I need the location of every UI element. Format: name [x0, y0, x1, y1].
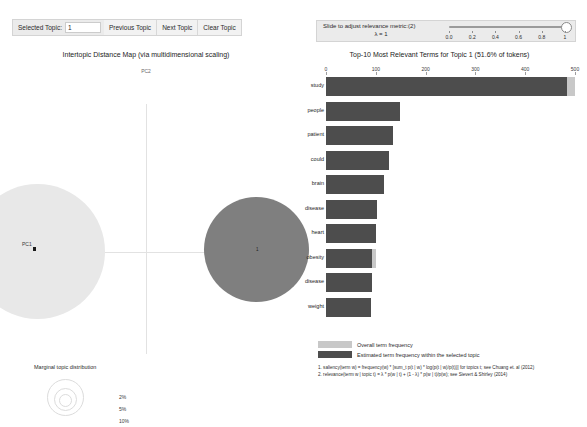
- slider-tick-label: 0.4: [492, 34, 499, 40]
- x-axis-tick-label: 300: [471, 66, 479, 72]
- barchart-row[interactable]: could: [292, 149, 587, 173]
- map-origin-marker: [33, 247, 36, 251]
- bar-topic-frequency[interactable]: [326, 273, 372, 292]
- pc1-axis-label: PC1: [22, 241, 32, 247]
- bar-term-label[interactable]: disease: [305, 278, 324, 284]
- map-y-axis: [146, 104, 147, 354]
- slider-tick: [565, 31, 566, 33]
- x-axis-tick-label: 200: [421, 66, 429, 72]
- barchart-row[interactable]: weight: [292, 296, 587, 320]
- footnote-relevance: 2. relevance(term w | topic t) = λ * p(w…: [318, 371, 580, 378]
- relevance-slider[interactable]: 0.00.20.40.60.81: [447, 24, 569, 40]
- topic-toolbar: Selected Topic: Previous Topic Next Topi…: [12, 19, 242, 36]
- map-title: Intertopic Distance Map (via multidimens…: [0, 51, 292, 58]
- bar-term-label[interactable]: people: [307, 107, 324, 113]
- slider-tick: [519, 31, 520, 33]
- barchart-row[interactable]: disease: [292, 198, 587, 222]
- barchart-row[interactable]: patient: [292, 124, 587, 148]
- x-axis-tick-label: 0: [325, 66, 328, 72]
- topic-bubble-2[interactable]: [0, 184, 105, 319]
- slider-tick: [449, 31, 450, 33]
- bar-term-label[interactable]: disease: [305, 205, 324, 211]
- lambda-value-label: λ = 1: [323, 31, 439, 37]
- barchart-footnotes: 1. saliency(term w) = frequency(w) * [su…: [318, 364, 580, 378]
- barchart-row[interactable]: people: [292, 100, 587, 124]
- marginal-topic-distribution-legend: Marginal topic distribution 2% 5% 10%: [26, 364, 176, 427]
- legend-row-estimated: Estimated term frequency within the sele…: [318, 350, 480, 359]
- barchart-row[interactable]: obesity: [292, 247, 587, 271]
- bar-term-label[interactable]: study: [311, 82, 324, 88]
- selected-topic-group: Selected Topic:: [13, 20, 104, 35]
- next-topic-button[interactable]: Next Topic: [157, 20, 198, 35]
- barchart-legend: Overall term frequency Estimated term fr…: [318, 340, 587, 362]
- barchart-row[interactable]: brain: [292, 173, 587, 197]
- legend-swatch-estimated: [318, 351, 352, 358]
- bar-topic-frequency[interactable]: [326, 77, 567, 96]
- barchart-row[interactable]: heart: [292, 222, 587, 246]
- legend-label-estimated: Estimated term frequency within the sele…: [357, 352, 480, 358]
- slider-track[interactable]: [449, 26, 565, 28]
- slider-tick: [495, 31, 496, 33]
- bar-topic-frequency[interactable]: [326, 249, 372, 268]
- bar-topic-frequency[interactable]: [326, 126, 393, 145]
- bar-term-label[interactable]: obesity: [307, 254, 324, 260]
- bar-term-label[interactable]: could: [311, 156, 324, 162]
- selected-topic-label: Selected Topic:: [18, 24, 62, 31]
- x-axis-tick-label: 400: [521, 66, 529, 72]
- x-axis-tick-label: 100: [372, 66, 380, 72]
- bar-topic-frequency[interactable]: [326, 175, 384, 194]
- relevance-slider-panel: Slide to adjust relevance metric:(2) λ =…: [316, 20, 576, 42]
- top-terms-barchart-panel: Top-10 Most Relevant Terms for Topic 1 (…: [292, 44, 587, 396]
- barchart-row[interactable]: disease: [292, 271, 587, 295]
- slider-tick: [542, 31, 543, 33]
- x-axis-tick-label: 500: [571, 66, 579, 72]
- intertopic-distance-map-panel: Intertopic Distance Map (via multidimens…: [0, 44, 292, 396]
- barchart-row[interactable]: study: [292, 75, 587, 99]
- bar-term-label[interactable]: heart: [311, 229, 324, 235]
- topic-bubble-1-label: 1: [256, 247, 259, 252]
- bar-topic-frequency[interactable]: [326, 200, 377, 219]
- bar-topic-frequency[interactable]: [326, 102, 400, 121]
- pc2-axis-label: PC2: [0, 68, 292, 74]
- slider-tick-label: 0.6: [515, 34, 522, 40]
- clear-topic-button[interactable]: Clear Topic: [198, 20, 240, 35]
- slider-tick-label: 0.2: [469, 34, 476, 40]
- marginal-circle-10pct: [47, 379, 84, 416]
- bar-term-label[interactable]: weight: [308, 303, 324, 309]
- barchart-title: Top-10 Most Relevant Terms for Topic 1 (…: [292, 51, 587, 58]
- bar-topic-frequency[interactable]: [326, 151, 389, 170]
- legend-swatch-overall: [318, 341, 352, 348]
- bar-term-label[interactable]: brain: [312, 180, 324, 186]
- marginal-legend-title: Marginal topic distribution: [34, 364, 96, 370]
- legend-label-overall: Overall term frequency: [357, 342, 413, 348]
- slider-tick-label: 1: [564, 34, 567, 40]
- relevance-slider-label: Slide to adjust relevance metric:(2): [323, 23, 415, 29]
- previous-topic-button[interactable]: Previous Topic: [104, 20, 157, 35]
- bar-topic-frequency[interactable]: [326, 224, 376, 243]
- marginal-label-2pct: 2%: [119, 394, 126, 400]
- barchart-bars: studypeoplepatientcouldbraindiseaseheart…: [292, 75, 587, 341]
- selected-topic-input[interactable]: [65, 22, 101, 33]
- slider-tick-label: 0.0: [446, 34, 453, 40]
- bar-topic-frequency[interactable]: [326, 298, 371, 317]
- slider-tick-label: 0.8: [538, 34, 545, 40]
- marginal-label-5pct: 5%: [119, 406, 126, 412]
- legend-row-overall: Overall term frequency: [318, 340, 413, 349]
- bar-term-label[interactable]: patient: [307, 131, 324, 137]
- slider-tick-marks: 0.00.20.40.60.81: [447, 31, 569, 41]
- slider-tick: [472, 31, 473, 33]
- footnote-saliency: 1. saliency(term w) = frequency(w) * [su…: [318, 364, 580, 371]
- marginal-label-10pct: 10%: [119, 418, 129, 424]
